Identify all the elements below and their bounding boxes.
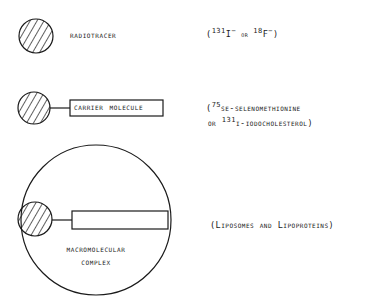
macromolecular-complex-symbol-icon (18, 145, 171, 295)
carrier-molecule-examples-note-line1: (75Se-selenomethionine (206, 101, 301, 115)
macromolecular-label-line1: Macromolecular (50, 244, 142, 254)
radiotracer-symbol-icon (19, 19, 53, 53)
radiotracer-label: Radiotracer (70, 30, 116, 40)
carrier-molecule-examples-note-line2: or 131I-iodocholesterol) (208, 116, 313, 130)
macromolecular-examples-note: (Liposomes and Lipoproteins) (210, 218, 334, 232)
macromolecular-label-line2: Complex (50, 257, 142, 267)
radiotracer-isotopes-note: (131I− or 18F−) (206, 27, 279, 42)
carrier-molecule-label: Carrier Molecule (74, 102, 143, 112)
